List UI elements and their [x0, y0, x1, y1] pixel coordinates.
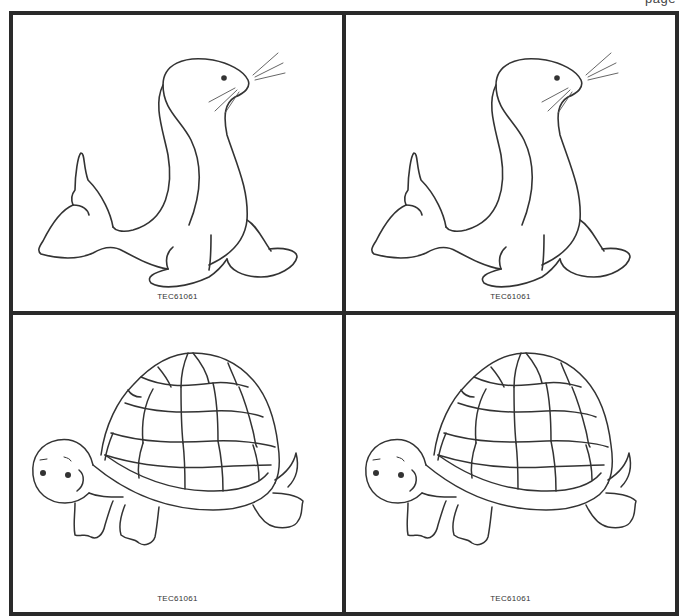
- sea-lion-illustration: [13, 15, 342, 311]
- product-code: TEC61061: [13, 292, 342, 301]
- card-sea-lion-1: TEC61061: [13, 15, 342, 311]
- card-turtle-2: TEC61061: [346, 315, 675, 612]
- turtle-illustration: [346, 315, 675, 612]
- page-label: page: [645, 0, 676, 6]
- product-code: TEC61061: [346, 594, 675, 603]
- card-turtle-1: TEC61061: [13, 315, 342, 612]
- product-code: TEC61061: [346, 292, 675, 301]
- product-code: TEC61061: [13, 594, 342, 603]
- sea-lion-illustration: [346, 15, 675, 311]
- turtle-illustration: [13, 315, 342, 612]
- card-sea-lion-2: TEC61061: [346, 15, 675, 311]
